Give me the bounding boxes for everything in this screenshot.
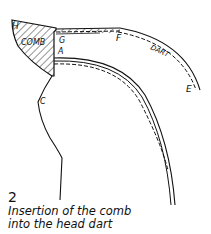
label-comb: COMB [21, 38, 45, 47]
pattern-diagram: H COMB G A F DART E C [0, 0, 211, 234]
figure-caption: Insertion of the comb into the head dart [8, 205, 131, 231]
label-h: H [12, 21, 19, 31]
label-e: E [186, 84, 192, 94]
figure-number: 2 [8, 189, 17, 205]
label-f: F [116, 33, 122, 43]
label-g: G [59, 36, 65, 45]
label-c: C [40, 97, 46, 106]
dart-top-strip [56, 28, 120, 34]
center-front-line [38, 76, 62, 200]
head-back-curve [54, 58, 175, 205]
caption-line-2: into the head dart [8, 218, 131, 231]
dart-curve [118, 28, 200, 90]
label-a: A [57, 47, 63, 56]
